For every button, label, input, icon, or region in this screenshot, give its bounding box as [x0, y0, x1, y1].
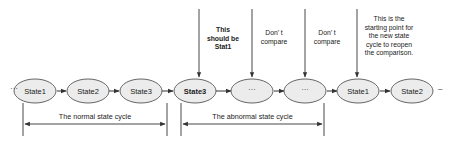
- state-node: State1: [14, 79, 56, 103]
- state-node: ···: [284, 79, 326, 103]
- state-node-highlighted: State3: [174, 79, 216, 103]
- annotation-note: Don’ t compare: [254, 29, 294, 46]
- note-line: This: [201, 26, 245, 35]
- node-label: State1: [347, 87, 369, 96]
- note-line: the new state: [357, 32, 421, 41]
- state-node: State2: [391, 79, 433, 103]
- note-line: Don’ t: [307, 29, 347, 38]
- note-line: should be: [201, 35, 245, 44]
- normal-cycle-label: The normal state cycle: [23, 112, 167, 121]
- state-node: State3: [120, 79, 162, 103]
- note-line: cycle to reopen: [357, 41, 421, 50]
- state-node: ···: [231, 79, 273, 103]
- node-label: State1: [24, 87, 46, 96]
- note-line: This is the: [357, 15, 421, 24]
- node-label: State3: [184, 87, 207, 96]
- node-label: State2: [401, 87, 423, 96]
- node-label: State3: [130, 87, 152, 96]
- note-line: Stat1: [201, 43, 245, 52]
- note-line: the comparison.: [357, 49, 421, 58]
- note-line: Don’ t: [254, 29, 294, 38]
- state-node: State1: [337, 79, 379, 103]
- abnormal-cycle-label: The abnormal state cycle: [181, 112, 324, 121]
- trailing-ellipsis: –: [438, 84, 442, 93]
- note-line: compare: [307, 38, 347, 47]
- note-line: starting point for: [357, 24, 421, 33]
- leading-ellipsis: ···: [10, 84, 18, 93]
- node-label: State2: [77, 87, 99, 96]
- note-line: compare: [254, 38, 294, 47]
- node-label: ···: [301, 85, 309, 94]
- node-label: ···: [248, 85, 256, 94]
- annotation-note: This should be Stat1: [201, 26, 245, 52]
- annotation-note: This is the starting point for the new s…: [357, 15, 421, 58]
- state-node: State2: [67, 79, 109, 103]
- annotation-note: Don’ t compare: [307, 29, 347, 46]
